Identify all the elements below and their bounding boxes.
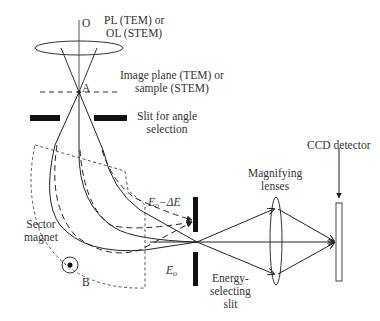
- origin-label: O: [82, 17, 90, 30]
- energy-slit-label-line1: Energy-: [210, 272, 251, 285]
- magnifying-label-line2: lenses: [248, 180, 302, 193]
- lens-label-line1: PL (TEM) or: [104, 14, 164, 27]
- image-plane-label: Image plane (TEM) or sample (STEM): [120, 69, 224, 95]
- angle-slit-label-line2: selection: [137, 123, 197, 136]
- ray-loss-center: [80, 150, 192, 228]
- point-b-label: B: [82, 276, 90, 289]
- b-field-dot: [68, 263, 73, 268]
- ccd-detector: [336, 203, 342, 281]
- ray-lens-to-ccd-top: [278, 209, 334, 241]
- ccd-detector-label: CCD detector: [307, 139, 371, 152]
- angle-slit-left: [30, 115, 60, 121]
- lens-label: PL (TEM) or OL (STEM): [104, 14, 164, 40]
- energy-slit-lower: [193, 252, 198, 286]
- magnifying-label-line1: Magnifying: [248, 167, 302, 180]
- energy-slit-label: Energy- selecting slit: [210, 272, 251, 311]
- eels-diagram: [0, 0, 380, 321]
- energy-slit-label-line2: selecting: [210, 285, 251, 298]
- ray-to-lens-top: [197, 209, 274, 242]
- point-a-label: A: [82, 82, 90, 95]
- sector-magnet-label-line1: Sector: [24, 218, 58, 231]
- angle-slit-label: Slit for angle selection: [137, 110, 197, 136]
- ray-lens-to-ccd-bottom: [278, 243, 334, 274]
- image-plane-label-line2: sample (STEM): [120, 82, 224, 95]
- sector-magnet-label-line2: magnet: [24, 231, 58, 244]
- ray-to-lens-bottom: [197, 242, 274, 274]
- energy-zero-label: Eo: [166, 264, 177, 280]
- sector-magnet-outline: [31, 145, 145, 288]
- lens-label-line2: OL (STEM): [104, 27, 164, 40]
- energy-slit-upper: [193, 197, 198, 232]
- angle-slit-label-line1: Slit for angle: [137, 110, 197, 123]
- image-plane-label-line1: Image plane (TEM) or: [120, 69, 224, 82]
- angle-slit-right: [94, 115, 127, 121]
- energy-loss-label: Eo−ΔE: [148, 196, 181, 212]
- energy-slit-label-line3: slit: [210, 298, 251, 311]
- sector-magnet-label: Sector magnet: [24, 218, 58, 244]
- magnifying-lenses-label: Magnifying lenses: [248, 167, 302, 193]
